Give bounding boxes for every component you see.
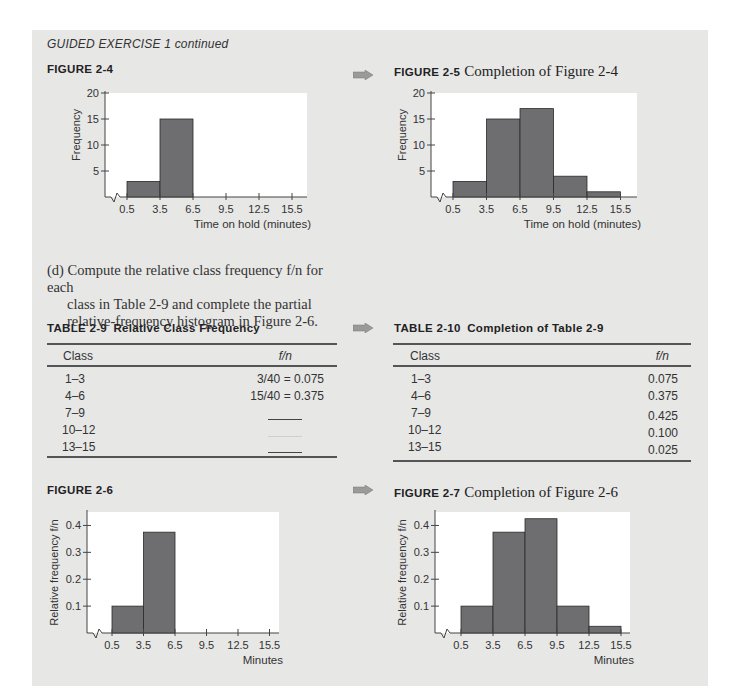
table-cell-class: 13–15 <box>408 440 441 454</box>
table-cell-fn: 0.375 <box>648 389 678 403</box>
x-tick-label: 6.5 <box>512 203 527 215</box>
figure-2-5-caption: FIGURE 2-5Completion of Figure 2-4 <box>394 63 618 80</box>
table-header-rule <box>393 365 691 367</box>
histogram-bar <box>589 626 621 633</box>
y-axis-label: Relative frequency f/n <box>48 519 60 625</box>
table-cell-class: 1–3 <box>65 372 85 386</box>
figure-label: FIGURE 2-5 <box>394 66 460 78</box>
histogram-bar <box>160 119 193 197</box>
x-tick-label: 0.5 <box>453 639 468 651</box>
table-bottom-rule <box>393 460 691 462</box>
histogram-bar <box>525 519 557 633</box>
table-cell-fn: 0.025 <box>648 443 678 457</box>
x-tick-label: 0.5 <box>104 639 119 651</box>
table-cell-fn: 15/40 = 0.375 <box>250 389 324 403</box>
y-tick-label: 0.2 <box>66 573 81 585</box>
instruction-line: (d) Compute the relative class frequency… <box>47 262 347 296</box>
figure-2-6-caption: FIGURE 2-6 <box>47 484 113 496</box>
answer-blank[interactable] <box>268 419 302 420</box>
figure-label: FIGURE 2-7 <box>394 487 460 499</box>
x-axis-label: Time on hold (minutes) <box>524 218 641 230</box>
table-cell-class: 1–3 <box>411 372 431 386</box>
table-cell-class: 7–9 <box>411 406 431 420</box>
answer-blank[interactable] <box>268 452 302 453</box>
table-2-10-caption: TABLE 2-10 Completion of Table 2-9 <box>394 322 604 334</box>
x-tick-label: 3.5 <box>136 639 151 651</box>
x-tick-label: 3.5 <box>479 203 494 215</box>
x-tick-label: 0.5 <box>445 203 460 215</box>
column-header-class: Class <box>63 349 93 363</box>
y-tick-label: 0.3 <box>414 546 429 558</box>
table-cell-class: 10–12 <box>62 423 95 437</box>
histogram-bar <box>127 181 160 197</box>
y-tick-label: 20 <box>87 87 99 99</box>
instruction-line: class in Table 2-9 and complete the part… <box>47 296 347 313</box>
table-cell-class: 13–15 <box>62 440 95 454</box>
y-tick-label: 0.4 <box>414 519 429 531</box>
answer-blank[interactable] <box>268 436 302 437</box>
histogram-bar <box>554 176 588 197</box>
x-tick-label: 3.5 <box>152 203 167 215</box>
y-tick-label: 0.1 <box>414 600 429 612</box>
x-tick-label: 9.5 <box>546 203 561 215</box>
x-tick-label: 9.5 <box>218 203 233 215</box>
y-tick-label: 10 <box>413 139 425 151</box>
figure-label: FIGURE 2-6 <box>47 484 113 496</box>
y-tick-label: 5 <box>419 165 425 177</box>
arrow-right-icon <box>353 323 373 333</box>
y-axis-label: Frequency <box>396 109 408 161</box>
y-tick-label: 15 <box>87 113 99 125</box>
table-2-10: Class f/n 1–3 0.075 4–6 0.375 7–9 0.425 … <box>393 343 691 443</box>
histogram-bar <box>144 532 176 633</box>
column-header-fn: f/n <box>279 349 292 363</box>
histogram-bar <box>557 606 589 633</box>
x-tick-label: 15.5 <box>610 639 631 651</box>
y-tick-label: 0.1 <box>66 600 81 612</box>
table-cell-fn: 0.425 <box>648 409 678 423</box>
histogram-bar <box>112 606 144 633</box>
table-cell-class: 4–6 <box>65 389 85 403</box>
figure-label: FIGURE 2-4 <box>47 63 113 75</box>
y-tick-label: 0.4 <box>66 519 81 531</box>
figure-2-4-histogram: 20151050.53.56.59.512.515.5FrequencyTime… <box>60 85 320 235</box>
table-cell-class: 10–12 <box>408 423 441 437</box>
figure-2-7-histogram: 0.40.30.20.10.53.56.59.512.515.5Relative… <box>388 505 648 665</box>
histogram-bar <box>461 606 493 633</box>
table-cell-fn: 0.075 <box>648 372 678 386</box>
column-header-class: Class <box>410 349 440 363</box>
running-head: GUIDED EXERCISE 1 continued <box>47 37 228 51</box>
table-2-9: Class f/n 1–3 3/40 = 0.075 4–6 15/40 = 0… <box>47 343 337 443</box>
table-header-rule <box>47 365 337 367</box>
table-top-rule <box>47 343 337 345</box>
x-tick-label: 15.5 <box>259 639 280 651</box>
y-tick-label: 20 <box>413 87 425 99</box>
table-title: Completion of Table 2-9 <box>467 322 603 334</box>
x-tick-label: 9.5 <box>549 639 564 651</box>
y-tick-label: 0.2 <box>414 573 429 585</box>
arrow-right-icon <box>353 485 373 495</box>
x-tick-label: 12.5 <box>576 203 597 215</box>
figure-2-4-caption: FIGURE 2-4 <box>47 63 113 75</box>
table-cell-fn: 0.100 <box>648 426 678 440</box>
table-label: TABLE 2-9 <box>47 322 107 334</box>
y-tick-label: 15 <box>413 113 425 125</box>
x-tick-label: 6.5 <box>167 639 182 651</box>
y-tick-label: 0.3 <box>66 546 81 558</box>
figure-title: Completion of Figure 2-6 <box>464 484 618 500</box>
x-tick-label: 3.5 <box>485 639 500 651</box>
figure-2-6-histogram: 0.40.30.20.10.53.56.59.512.515.5Relative… <box>40 505 300 665</box>
table-label: TABLE 2-10 <box>394 322 461 334</box>
figure-2-7-caption: FIGURE 2-7Completion of Figure 2-6 <box>394 484 618 501</box>
y-tick-label: 10 <box>87 139 99 151</box>
x-tick-label: 6.5 <box>517 639 532 651</box>
figure-title: Completion of Figure 2-4 <box>464 63 618 79</box>
histogram-bar <box>520 109 554 197</box>
histogram-bar <box>587 192 621 197</box>
table-bottom-rule <box>47 456 337 458</box>
table-2-9-caption: TABLE 2-9 Relative Class Frequency <box>47 322 260 334</box>
table-cell-class: 4–6 <box>411 389 431 403</box>
column-header-fn: f/n <box>656 349 669 363</box>
y-axis-label: Frequency <box>70 109 82 161</box>
table-cell-class: 7–9 <box>65 406 85 420</box>
x-axis-label: Minutes <box>594 654 635 665</box>
